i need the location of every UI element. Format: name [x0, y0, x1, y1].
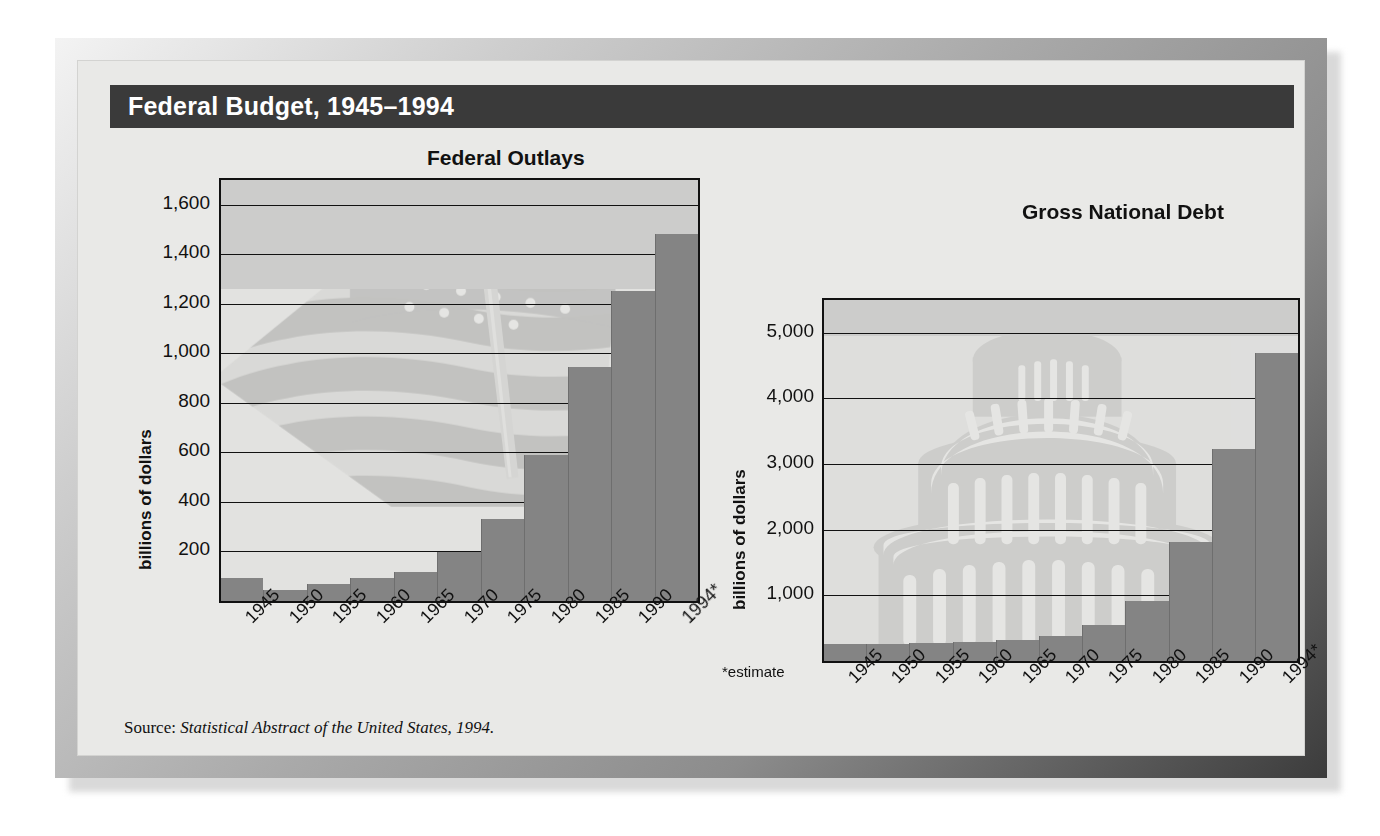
y-tick-label: 1,000 [766, 582, 814, 604]
bar-series-federal-outlays [221, 180, 698, 601]
y-tick-label: 800 [178, 390, 210, 412]
y-tick-label: 2,000 [766, 517, 814, 539]
y-tick-label: 1,600 [162, 192, 210, 214]
x-axis-tick: 1970 [1039, 667, 1082, 747]
x-axis-tick: 1955 [909, 667, 952, 747]
chart-title-gross-national-debt: Gross National Debt [1022, 200, 1224, 224]
x-axis-tick: 1985 [569, 607, 613, 687]
chart-panel-federal-outlays: Federal Outlays billions of dollars 2004… [122, 150, 712, 710]
x-axis-tick: 1965 [394, 607, 438, 687]
x-axis-tick: 1990 [613, 607, 657, 687]
y-tick-label: 200 [178, 538, 210, 560]
x-axis-tick: 1965 [996, 667, 1039, 747]
bar-1994-est [655, 234, 698, 602]
source-note: Source: Statistical Abstract of the Unit… [124, 718, 494, 738]
y-tick-label: 400 [178, 489, 210, 511]
x-axis-tick: 1994* [656, 607, 700, 687]
bar-1985 [1169, 542, 1212, 661]
x-axis-tick: 1945 [822, 667, 865, 747]
y-tick-label: 3,000 [766, 451, 814, 473]
x-axis-tick: 1970 [438, 607, 482, 687]
y-tick-label: 4,000 [766, 385, 814, 407]
x-axis-tick: 1950 [263, 607, 307, 687]
y-tick-label: 5,000 [766, 320, 814, 342]
source-label: Source: [124, 718, 180, 737]
estimate-footnote: *estimate [722, 663, 785, 680]
x-axis-tick: 1955 [306, 607, 350, 687]
chart-panel-gross-national-debt: Gross National Debt billions of dollars … [722, 210, 1312, 710]
x-axis-tick: 1994* [1257, 667, 1300, 747]
x-axis-tick: 1945 [219, 607, 263, 687]
x-axis-labels-gross-national-debt: 1945195019551960196519701975198019851990… [822, 667, 1300, 747]
y-tick-label: 1,200 [162, 291, 210, 313]
x-axis-tick: 1975 [1083, 667, 1126, 747]
x-axis-labels-federal-outlays: 1945195019551960196519701975198019851990… [219, 607, 700, 687]
x-axis-tick: 1950 [865, 667, 908, 747]
source-title: Statistical Abstract of the United State… [180, 718, 494, 737]
bar-1990 [1212, 449, 1255, 661]
x-axis-tick: 1980 [1126, 667, 1169, 747]
x-axis-tick: 1960 [952, 667, 995, 747]
y-tick-label: 600 [178, 439, 210, 461]
figure-outer-frame: Federal Budget, 1945–1994 Federal Outlay… [55, 38, 1327, 778]
bar-series-gross-national-debt [824, 300, 1298, 661]
x-axis-tick: 1975 [481, 607, 525, 687]
figure-title-bar: Federal Budget, 1945–1994 [110, 85, 1294, 128]
plot-area-federal-outlays [219, 178, 700, 603]
plot-area-gross-national-debt [822, 298, 1300, 663]
bar-1980 [524, 455, 567, 601]
y-tick-label: 1,000 [162, 340, 210, 362]
x-axis-tick: 1960 [350, 607, 394, 687]
x-axis-tick: 1985 [1170, 667, 1213, 747]
x-axis-tick: 1990 [1213, 667, 1256, 747]
figure-inner-panel: Federal Budget, 1945–1994 Federal Outlay… [77, 60, 1305, 756]
y-axis-ticks-gross-national-debt: 1,0002,0003,0004,0005,000 [726, 298, 814, 663]
x-axis-tick: 1980 [525, 607, 569, 687]
bar-1985 [568, 367, 611, 601]
bar-1994-est [1255, 353, 1298, 661]
y-tick-label: 1,400 [162, 241, 210, 263]
chart-title-federal-outlays: Federal Outlays [427, 146, 585, 170]
y-axis-ticks-federal-outlays: 2004006008001,0001,2001,4001,600 [122, 178, 210, 603]
page-title: Federal Budget, 1945–1994 [110, 92, 454, 121]
bar-1990 [611, 291, 654, 601]
